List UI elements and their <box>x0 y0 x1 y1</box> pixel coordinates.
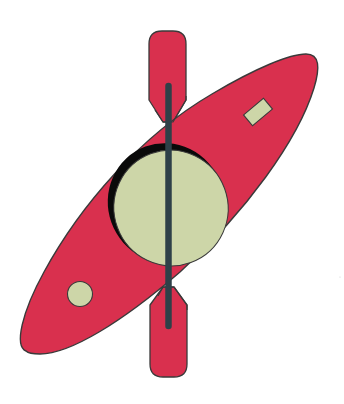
kayak-illustration: Kayak with double-bladed paddle <box>0 0 344 404</box>
scan-speck <box>339 276 340 277</box>
stern-hatch <box>68 282 93 307</box>
kayak-svg <box>0 0 344 404</box>
